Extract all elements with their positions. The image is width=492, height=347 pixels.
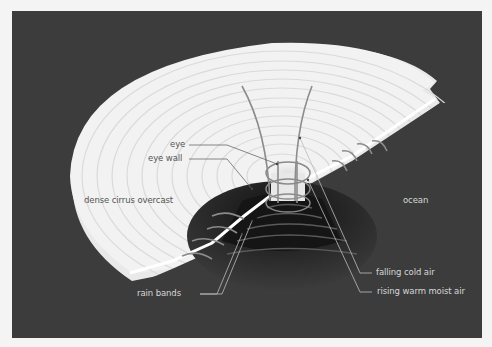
label-eye: eye: [170, 139, 185, 149]
label-eye-wall: eye wall: [148, 153, 182, 163]
label-ocean: ocean: [403, 195, 428, 205]
label-rising-warm-moist-air: rising warm moist air: [377, 286, 465, 296]
hurricane-diagram: eye eye wall dense cirrus overcast ocean…: [12, 11, 482, 338]
label-rain-bands: rain bands: [137, 288, 181, 298]
label-dense-cirrus-overcast: dense cirrus overcast: [84, 195, 173, 205]
label-falling-cold-air: falling cold air: [376, 267, 435, 277]
